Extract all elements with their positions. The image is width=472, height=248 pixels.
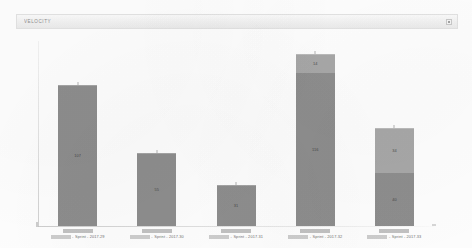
bar-series-container: 1075531141163440 xyxy=(38,29,434,227)
bar-segment-upper[interactable]: 34 xyxy=(375,128,414,173)
bar-value-label: 14 xyxy=(313,61,318,67)
bar-value-label: 116 xyxy=(312,147,319,153)
velocity-panel: VELOCITY 1075531141163440 -Sprint - 2017… xyxy=(16,14,458,232)
chart-plot-area: 1075531141163440 -Sprint - 2017.29-Sprin… xyxy=(16,29,458,232)
redaction-inline xyxy=(288,235,308,239)
redaction-bar xyxy=(63,229,93,233)
bar-segment-upper[interactable]: 14 xyxy=(296,54,335,73)
label-separator: - xyxy=(310,234,311,240)
redaction-inline xyxy=(367,235,387,239)
sprint-label-text: Sprint - 2017.31 xyxy=(233,234,263,240)
panel-header: VELOCITY xyxy=(16,14,458,29)
bar-segment-lower[interactable]: 31 xyxy=(217,185,256,226)
bar-segment-lower[interactable]: 40 xyxy=(375,173,414,226)
sprint-label-text: Sprint - 2017.29 xyxy=(75,234,105,240)
bar-value-label: 31 xyxy=(234,203,239,209)
redaction-inline xyxy=(130,235,150,239)
sprint-label-text: Sprint - 2017.32 xyxy=(313,234,343,240)
hamburger-menu-icon[interactable] xyxy=(446,19,452,25)
page-title: VELOCITY xyxy=(17,19,51,25)
x-axis-label-4: -Sprint - 2017.32 xyxy=(275,229,355,239)
label-separator: - xyxy=(151,234,152,240)
bar-5[interactable]: 3440 xyxy=(375,128,414,226)
bar-segment-lower[interactable]: 55 xyxy=(137,153,176,226)
x-axis-labels: -Sprint - 2017.29-Sprint - 2017.30-Sprin… xyxy=(38,229,434,245)
bar-value-label: 107 xyxy=(74,153,81,159)
bar-1[interactable]: 107 xyxy=(58,85,97,226)
redaction-bar xyxy=(300,229,330,233)
bar-value-label: 55 xyxy=(155,187,160,193)
redaction-inline xyxy=(51,235,71,239)
sprint-label-text: Sprint - 2017.33 xyxy=(392,234,422,240)
sprint-label-text: Sprint - 2017.30 xyxy=(154,234,184,240)
label-separator: - xyxy=(230,234,231,240)
bar-value-label: 40 xyxy=(392,197,397,203)
x-axis-label-1: -Sprint - 2017.29 xyxy=(38,229,118,239)
label-separator: - xyxy=(72,234,73,240)
redaction-bar xyxy=(142,229,172,233)
x-axis-label-2: -Sprint - 2017.30 xyxy=(117,229,197,239)
x-axis-label-3: -Sprint - 2017.31 xyxy=(196,229,276,239)
redaction-inline xyxy=(209,235,229,239)
bar-segment-lower[interactable]: 107 xyxy=(58,85,97,226)
bar-4[interactable]: 14116 xyxy=(296,54,335,226)
bar-2[interactable]: 55 xyxy=(137,153,176,226)
bar-value-label: 34 xyxy=(392,148,397,154)
redaction-bar xyxy=(221,229,251,233)
x-axis-label-5: -Sprint - 2017.33 xyxy=(354,229,434,239)
label-separator: - xyxy=(389,234,390,240)
redaction-bar xyxy=(379,229,409,233)
bar-segment-lower[interactable]: 116 xyxy=(296,73,335,226)
bar-3[interactable]: 31 xyxy=(217,185,256,226)
